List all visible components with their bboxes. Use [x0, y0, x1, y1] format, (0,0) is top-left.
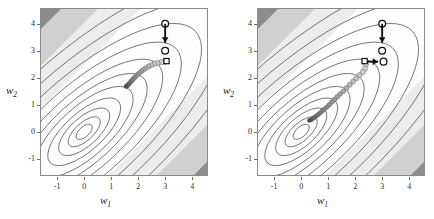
x-tick-label: 1 [319, 182, 337, 191]
x-tick-label: 3 [156, 182, 174, 191]
y-tick-label: 0 [235, 127, 252, 136]
y-tickmark [254, 132, 257, 133]
x-tickmark [138, 177, 139, 180]
x-tickmark [165, 177, 166, 180]
x-tickmark [382, 177, 383, 180]
y-tick-label: 4 [18, 19, 35, 28]
x-axis-label-right: w1 [317, 194, 328, 209]
x-tick-label: 0 [75, 182, 93, 191]
y-tick-label: 3 [18, 46, 35, 55]
y-tickmark [37, 24, 40, 25]
y-tick-label: -1 [235, 154, 252, 163]
square-marker [164, 58, 169, 63]
plot-area-right [257, 8, 425, 176]
figure-two-contour-panels: w2 w1 -101234-101234 w2 w1 -101234-10123… [0, 0, 434, 219]
y-tick-label: 2 [18, 73, 35, 82]
x-tick-label: 3 [373, 182, 391, 191]
x-tick-label: 4 [183, 182, 201, 191]
y-tickmark [37, 159, 40, 160]
x-tick-label: 4 [400, 182, 418, 191]
x-tickmark [301, 177, 302, 180]
x-tick-label: -1 [265, 182, 283, 191]
y-tickmark [37, 51, 40, 52]
x-tick-label: 1 [102, 182, 120, 191]
trajectory-marker [307, 119, 311, 123]
x-tickmark [274, 177, 275, 180]
y-tick-label: 4 [235, 19, 252, 28]
y-tick-label: -1 [18, 154, 35, 163]
x-tick-label: 0 [292, 182, 310, 191]
mid-circle [162, 47, 169, 54]
x-tick-label: -1 [48, 182, 66, 191]
y-tickmark [254, 24, 257, 25]
x-tickmark [111, 177, 112, 180]
plot-area-left [40, 8, 208, 176]
y-tick-label: 0 [18, 127, 35, 136]
x-axis-label-left: w1 [100, 194, 111, 209]
mid-circle [379, 47, 386, 54]
y-tickmark [254, 105, 257, 106]
x-tickmark [57, 177, 58, 180]
y-tickmark [37, 78, 40, 79]
x-tickmark [355, 177, 356, 180]
contour-plot-left [41, 9, 207, 175]
end-circle [380, 58, 387, 65]
y-tickmark [37, 105, 40, 106]
y-axis-label-left: w2 [6, 84, 17, 99]
x-tickmark [84, 177, 85, 180]
panel-left: w2 w1 -101234-101234 [0, 0, 217, 219]
y-tickmark [254, 159, 257, 160]
y-tickmark [254, 78, 257, 79]
x-tick-label: 2 [129, 182, 147, 191]
y-tick-label: 2 [235, 73, 252, 82]
y-axis-label-right: w2 [223, 84, 234, 99]
square-marker [362, 58, 367, 63]
y-tickmark [254, 51, 257, 52]
y-tick-label: 3 [235, 46, 252, 55]
x-tickmark [409, 177, 410, 180]
y-tickmark [37, 132, 40, 133]
x-tickmark [328, 177, 329, 180]
y-tick-label: 1 [235, 100, 252, 109]
trajectory-marker [124, 85, 128, 89]
x-tick-label: 2 [346, 182, 364, 191]
panel-right: w2 w1 -101234-101234 [217, 0, 434, 219]
x-tickmark [192, 177, 193, 180]
contour-plot-right [258, 9, 424, 175]
y-tick-label: 1 [18, 100, 35, 109]
